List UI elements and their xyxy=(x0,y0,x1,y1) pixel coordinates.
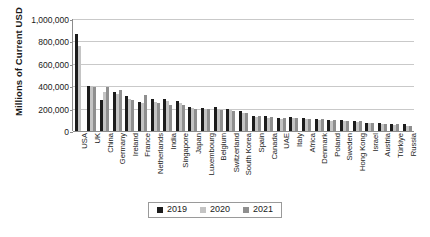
bar-group xyxy=(351,19,364,131)
x-axis-label-cell: Ireland xyxy=(123,133,136,191)
bar-2021 xyxy=(106,87,109,131)
bar-2021 xyxy=(258,116,261,131)
legend-label: 2020 xyxy=(210,205,230,214)
bar-2020 xyxy=(78,46,81,131)
bar-group xyxy=(98,19,111,131)
x-axis-label-cell: Poland xyxy=(325,133,338,191)
bar-group xyxy=(275,19,288,131)
bar-group xyxy=(401,19,414,131)
bar-2021 xyxy=(182,105,185,131)
legend-entry: 2021 xyxy=(243,205,273,214)
x-axis-label-cell: Spain xyxy=(249,133,262,191)
x-axis-label-cell: Canada xyxy=(261,133,274,191)
bar-group xyxy=(225,19,238,131)
x-axis-label-cell: Germany xyxy=(110,133,123,191)
bar-2021 xyxy=(346,121,349,131)
bar-2021 xyxy=(321,119,324,131)
legend-swatch-icon xyxy=(157,207,163,213)
y-axis-tick-label: 800,000 xyxy=(5,38,73,47)
x-axis-label-cell: Sweden xyxy=(337,133,350,191)
bar-group xyxy=(212,19,225,131)
x-axis-label-cell: Luxembourg xyxy=(198,133,211,191)
x-axis-label-cell: Switzerland xyxy=(224,133,237,191)
bar-2021 xyxy=(93,87,96,131)
x-axis-label-cell: Netherlands xyxy=(148,133,161,191)
bar-group xyxy=(237,19,250,131)
x-axis-label-cell: South Korea xyxy=(236,133,249,191)
legend-swatch-icon xyxy=(200,207,206,213)
x-axis-label-cell: Belgium xyxy=(211,133,224,191)
y-axis-tick-label: 400,000 xyxy=(5,83,73,92)
bar-group xyxy=(174,19,187,131)
bar-group xyxy=(73,19,86,131)
bar-group xyxy=(86,19,99,131)
legend-entry: 2020 xyxy=(200,205,230,214)
bar-group xyxy=(136,19,149,131)
x-axis-tick-label: Russia xyxy=(410,133,418,156)
bar-group xyxy=(187,19,200,131)
y-axis-tick-label: 0 xyxy=(5,128,73,137)
bar-group xyxy=(111,19,124,131)
y-axis-tick-label: 600,000 xyxy=(5,61,73,70)
legend-entry: 2019 xyxy=(157,205,187,214)
bar-2021 xyxy=(245,113,248,131)
legend-label: 2019 xyxy=(167,205,187,214)
x-axis-label-cell: UK xyxy=(85,133,98,191)
x-axis-label-cell: Türkiye xyxy=(388,133,401,191)
bar-2021 xyxy=(371,123,374,131)
bar-group xyxy=(313,19,326,131)
bar-group xyxy=(363,19,376,131)
bar-group xyxy=(376,19,389,131)
x-axis-label-cell: Japan xyxy=(186,133,199,191)
bar-2021 xyxy=(157,103,160,131)
x-axis-label-cell: Africa xyxy=(299,133,312,191)
bar-group xyxy=(262,19,275,131)
bar-group xyxy=(288,19,301,131)
bar-2021 xyxy=(359,121,362,131)
legend-box: 201920202021 xyxy=(148,202,282,218)
bar-group xyxy=(161,19,174,131)
bar-2021 xyxy=(194,109,197,131)
bar-2021 xyxy=(396,124,399,131)
bar-2021 xyxy=(169,105,172,131)
x-axis-label-cell: China xyxy=(97,133,110,191)
bar-2021 xyxy=(308,119,311,131)
gridline: 0 xyxy=(73,131,414,132)
y-axis-tick-label: 1,000,000 xyxy=(5,16,73,25)
x-axis-label-cell: USA xyxy=(72,133,85,191)
x-axis-label-cell: Hong Kong xyxy=(350,133,363,191)
bar-group xyxy=(149,19,162,131)
bar-2021 xyxy=(295,118,298,131)
bar-2021 xyxy=(131,100,134,131)
bar-group xyxy=(389,19,402,131)
bar-group xyxy=(300,19,313,131)
bar-2021 xyxy=(384,124,387,131)
bar-group xyxy=(124,19,137,131)
y-axis-tick-label: 200,000 xyxy=(5,106,73,115)
bar-2021 xyxy=(119,90,122,131)
x-axis-label-cell: India xyxy=(160,133,173,191)
bar-2021 xyxy=(220,110,223,131)
plot-area: 0200,000400,000600,000800,0001,000,000 xyxy=(72,19,413,131)
x-axis-label-cell: France xyxy=(135,133,148,191)
bar-group xyxy=(338,19,351,131)
x-axis-label-cell: Italy xyxy=(287,133,300,191)
x-axis-label-cell: Austria xyxy=(375,133,388,191)
bar-2021 xyxy=(270,117,273,131)
x-axis-label-cell: Singapore xyxy=(173,133,186,191)
x-axis-label-cell: Denmark xyxy=(312,133,325,191)
bar-2021 xyxy=(207,109,210,131)
x-axis-labels: USAUKChinaGermanyIrelandFranceNetherland… xyxy=(72,133,413,191)
bars-layer xyxy=(73,19,414,131)
bar-group xyxy=(250,19,263,131)
x-axis-label-cell: Russia xyxy=(400,133,413,191)
x-axis-label-cell: UAE xyxy=(274,133,287,191)
bar-chart: Millions of Current USD 0200,000400,0006… xyxy=(0,0,430,237)
bar-2021 xyxy=(283,118,286,131)
bar-2021 xyxy=(232,111,235,131)
bar-2021 xyxy=(409,126,412,131)
legend-label: 2021 xyxy=(253,205,273,214)
bar-group xyxy=(326,19,339,131)
legend: 201920202021 xyxy=(0,202,430,218)
bar-2021 xyxy=(333,120,336,131)
